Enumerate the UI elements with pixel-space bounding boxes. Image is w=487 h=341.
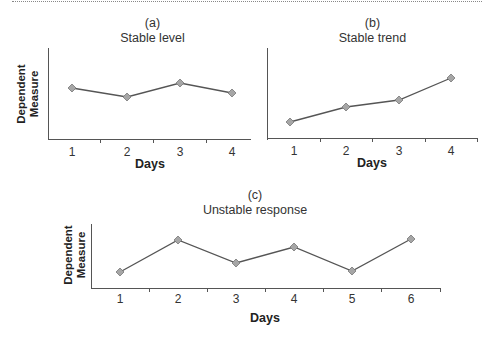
chart-a-tick-3: 3 bbox=[174, 145, 186, 159]
chart-a-title-text: Stable level bbox=[100, 31, 205, 46]
data-point-marker bbox=[68, 84, 76, 92]
y-label-line2: Measure bbox=[75, 215, 88, 295]
data-point-marker bbox=[116, 268, 124, 276]
chart-c-tick-3: 3 bbox=[230, 292, 242, 306]
chart-c-tick-2: 2 bbox=[172, 292, 184, 306]
chart-b-series bbox=[290, 78, 451, 122]
data-point-marker bbox=[447, 74, 455, 82]
chart-a-series bbox=[72, 83, 232, 97]
data-point-marker bbox=[348, 267, 356, 275]
chart-b-tick-1: 1 bbox=[288, 144, 300, 158]
y-label-line1: Dependent bbox=[62, 215, 75, 295]
chart-b-title-text: Stable trend bbox=[320, 31, 425, 46]
chart-b-title: (b) Stable trend bbox=[320, 16, 425, 46]
chart-c-x-axis-label: Days bbox=[240, 311, 290, 325]
chart-b-tick-4: 4 bbox=[445, 144, 457, 158]
y-label-line1: Dependent bbox=[15, 54, 28, 134]
chart-a-tick-4: 4 bbox=[226, 145, 238, 159]
chart-c-y-axis-label: Dependent Measure bbox=[62, 215, 88, 295]
chart-b-axes bbox=[267, 48, 478, 142]
chart-b-x-axis-label: Days bbox=[347, 156, 397, 170]
chart-c-series bbox=[120, 239, 411, 272]
chart-c-tick-4: 4 bbox=[288, 292, 300, 306]
data-point-marker bbox=[123, 93, 131, 101]
data-point-marker bbox=[228, 89, 236, 97]
chart-c-tick-6: 6 bbox=[405, 292, 417, 306]
data-point-marker bbox=[286, 118, 294, 126]
chart-b-panel-letter: (b) bbox=[320, 16, 425, 31]
chart-c-tick-1: 1 bbox=[114, 292, 126, 306]
data-point-marker bbox=[395, 96, 403, 104]
chart-a-tick-1: 1 bbox=[66, 145, 78, 159]
data-point-marker bbox=[407, 235, 415, 243]
chart-c-axes bbox=[91, 224, 441, 292]
chart-c-panel-letter: (c) bbox=[190, 188, 320, 203]
chart-a-panel-letter: (a) bbox=[100, 16, 205, 31]
chart-a-x-axis-label: Days bbox=[125, 157, 175, 171]
chart-c-title: (c) Unstable response bbox=[190, 188, 320, 218]
chart-c-title-text: Unstable response bbox=[190, 203, 320, 218]
data-point-marker bbox=[290, 243, 298, 251]
chart-a-title: (a) Stable level bbox=[100, 16, 205, 46]
data-point-marker bbox=[176, 79, 184, 87]
chart-c-tick-5: 5 bbox=[346, 292, 358, 306]
chart-a-axes bbox=[48, 48, 251, 143]
data-point-marker bbox=[342, 103, 350, 111]
chart-b-markers bbox=[286, 74, 455, 126]
y-label-line2: Measure bbox=[28, 54, 41, 134]
data-point-marker bbox=[232, 259, 240, 267]
chart-a-y-axis-label: Dependent Measure bbox=[15, 54, 41, 134]
data-point-marker bbox=[174, 236, 182, 244]
